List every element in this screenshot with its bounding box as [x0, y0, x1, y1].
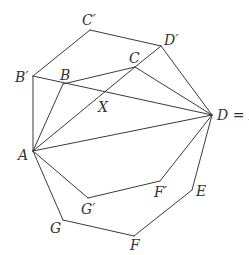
segment-g-a [33, 151, 63, 220]
segment-a-b [33, 84, 63, 151]
segment-gp-fp [88, 181, 160, 198]
label-g: G [50, 220, 61, 236]
label-bprime: B′ [14, 69, 29, 85]
label-gprime: G′ [81, 201, 96, 217]
segment-d-e [192, 115, 212, 190]
label-fprime: F′ [153, 184, 168, 200]
label-f: F [129, 237, 141, 253]
label-a: A [16, 147, 28, 163]
segment-dp-d [161, 46, 212, 115]
label-e: E [195, 183, 206, 199]
label-c: C [129, 50, 140, 66]
segment-a-gp [33, 151, 88, 198]
segment-cp-dp [90, 30, 161, 46]
segment-c-d [135, 67, 212, 115]
segment-fp-d [160, 115, 212, 181]
label-cprime: C′ [82, 12, 97, 28]
geometry-diagram: C′ D′ B′ B C X D = E′ A G′ F′ E G F [0, 0, 249, 255]
label-dprime: D′ [163, 32, 179, 48]
label-b: B [59, 67, 70, 83]
label-x: X [97, 99, 109, 115]
segment-a-d [33, 115, 212, 151]
label-d-equals-eprime: D = E′ [216, 107, 249, 123]
labels-group: C′ D′ B′ B C X D = E′ A G′ F′ E G F [14, 12, 249, 253]
edges-group [33, 30, 212, 236]
segment-f-g [63, 220, 134, 236]
